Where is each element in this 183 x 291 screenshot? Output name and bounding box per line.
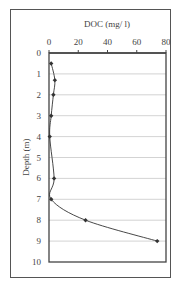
y-tick-label: 3 xyxy=(37,111,42,121)
data-point-diamond-icon xyxy=(49,114,53,118)
data-point-diamond-icon xyxy=(49,61,53,65)
x-tick-label: 40 xyxy=(103,37,113,47)
doc-depth-chart: DOC (mg/ l) 020406080 012345678910 Depth… xyxy=(0,0,183,291)
x-tick-label: 0 xyxy=(47,37,52,47)
doc-series-markers xyxy=(48,61,160,243)
data-point-diamond-icon xyxy=(51,93,55,97)
x-axis-title: DOC (mg/ l) xyxy=(84,19,130,29)
y-tick-label: 6 xyxy=(37,173,42,183)
data-point-diamond-icon xyxy=(48,134,52,138)
y-tick-label: 10 xyxy=(32,257,42,267)
x-tick-label: 20 xyxy=(74,37,84,47)
y-tick-label: 0 xyxy=(37,48,42,58)
data-point-diamond-icon xyxy=(83,218,87,222)
y-tick-label: 8 xyxy=(37,215,42,225)
x-axis-ticks: 020406080 xyxy=(47,37,171,53)
y-tick-label: 5 xyxy=(37,153,42,163)
data-point-diamond-icon xyxy=(155,239,159,243)
x-tick-label: 60 xyxy=(132,37,142,47)
y-tick-label: 7 xyxy=(37,194,42,204)
data-point-diamond-icon xyxy=(52,176,56,180)
y-axis-ticks: 012345678910 xyxy=(32,48,42,267)
y-tick-label: 4 xyxy=(37,132,42,142)
data-point-diamond-icon xyxy=(53,78,57,82)
y-tick-label: 2 xyxy=(37,90,42,100)
doc-series-line xyxy=(49,63,157,241)
x-tick-label: 80 xyxy=(162,37,172,47)
y-tick-label: 9 xyxy=(37,236,42,246)
gridlines xyxy=(49,74,166,241)
y-tick-label: 1 xyxy=(37,69,42,79)
y-axis-title: Depth (m) xyxy=(21,138,31,175)
